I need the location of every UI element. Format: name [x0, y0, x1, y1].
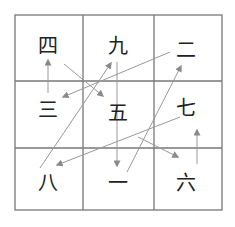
cell-r3c2: 一: [108, 171, 128, 195]
cell-labels: 四 九 二 三 五 七 八 一 六: [38, 34, 196, 195]
cell-r1c2: 九: [108, 34, 128, 58]
cell-r1c3: 二: [176, 38, 196, 62]
lo-shu-diagram: 四 九 二 三 五 七 八 一 六: [0, 0, 235, 227]
arrow-5-to-6: [138, 137, 178, 157]
cell-r2c2: 五: [108, 101, 128, 125]
cell-r2c3: 七: [176, 96, 196, 120]
cell-r2c1: 三: [38, 98, 58, 122]
cell-r1c1: 四: [38, 34, 58, 58]
cell-r3c1: 八: [38, 171, 58, 195]
cell-r3c3: 六: [176, 171, 196, 195]
